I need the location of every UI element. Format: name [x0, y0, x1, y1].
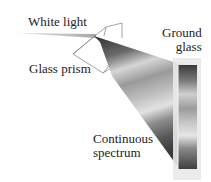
glass-prism-label: Glass prism [29, 62, 91, 76]
ground-glass-label: Ground glass [162, 26, 202, 54]
continuous-spectrum-label: Continuous spectrum [93, 132, 153, 160]
white-light-label: White light [28, 15, 87, 29]
prism-dispersion-diagram: White light Glass prism Ground glass Con… [0, 0, 211, 182]
white-light-beam [16, 33, 96, 38]
ground-glass [173, 58, 201, 180]
